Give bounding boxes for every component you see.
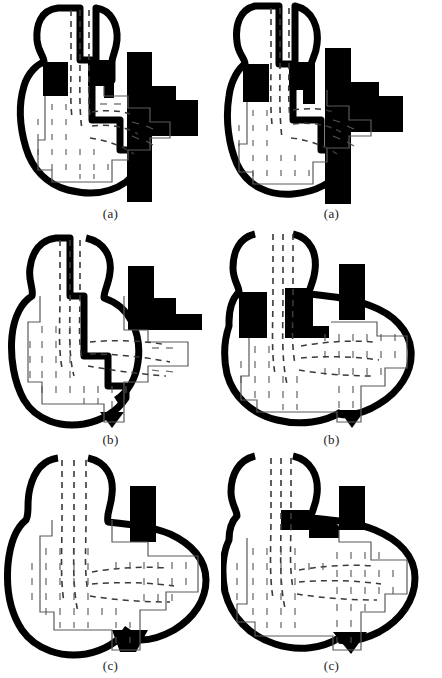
solid-obstacle-L xyxy=(128,266,202,330)
solid-obstacle-stem xyxy=(127,150,152,202)
panel-left-b-plot xyxy=(0,226,221,452)
panel-right-c-plot xyxy=(221,452,442,678)
free-surface-outline-right xyxy=(88,458,206,640)
solid-obstacle-column xyxy=(339,486,365,530)
neck-wall-left xyxy=(43,62,68,96)
neck-wall-right xyxy=(281,510,309,530)
solid-obstacle-column xyxy=(130,486,156,542)
panel-left-a: (a) xyxy=(0,0,221,226)
panel-label: (a) xyxy=(221,206,442,222)
panel-right-a: (a) xyxy=(221,0,442,226)
solid-obstacle-cross xyxy=(325,48,403,148)
solid-obstacle-column xyxy=(339,264,365,320)
velocity-vector-grid xyxy=(30,326,173,408)
velocity-vector-grid xyxy=(32,548,186,643)
streamlines-neck xyxy=(62,460,89,612)
panel-label: (b) xyxy=(221,432,442,448)
panel-right-c: (c) xyxy=(221,452,442,678)
velocity-vector-grid xyxy=(237,548,393,643)
panel-label: (c) xyxy=(221,658,442,674)
streamlines-outflow xyxy=(297,565,381,600)
panel-left-c-plot xyxy=(0,452,221,678)
figure-panel-grid: (a) xyxy=(0,0,442,678)
streamlines-neck xyxy=(271,458,294,608)
panel-right-b: (b) xyxy=(221,226,442,452)
neck-wall-left xyxy=(239,292,267,338)
neck-wall-left xyxy=(243,64,269,102)
panel-left-a-plot xyxy=(0,0,221,226)
solid-obstacle-cross xyxy=(127,52,198,150)
panel-left-c: (c) xyxy=(0,452,221,678)
panel-right-b-plot xyxy=(221,226,442,452)
solid-obstacle-bottom-notch xyxy=(333,632,367,654)
panel-right-a-plot xyxy=(221,0,442,226)
streamlines-outflow xyxy=(90,567,174,602)
panel-left-b: (b) xyxy=(0,226,221,452)
panel-label: (c) xyxy=(0,658,221,674)
panel-label: (b) xyxy=(0,432,221,448)
free-surface-outline-right xyxy=(293,456,415,641)
solid-obstacle-stem xyxy=(325,148,351,204)
panel-label: (a) xyxy=(0,206,221,222)
velocity-vector-grid xyxy=(241,334,395,410)
